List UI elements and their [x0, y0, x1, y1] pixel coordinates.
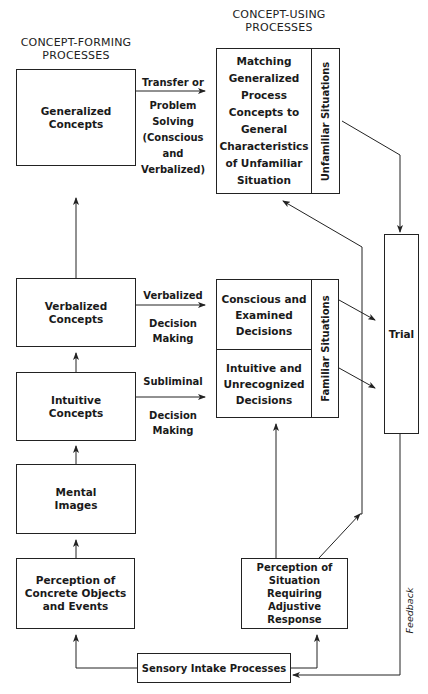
arrow-sensory-to-situation [291, 635, 317, 668]
unfamiliar-situations-box: Matching Generalized Process Concepts to… [216, 48, 340, 194]
mental-images-box: Mental Images [16, 464, 136, 534]
familiar-situations-label: Familiar Situations [312, 280, 339, 417]
transfer-label-bottom: Problem Solving (Conscious and Verbalize… [140, 98, 206, 178]
subliminal-decision-label-bottom: Decision Making [140, 408, 206, 438]
concept-forming-title: CONCEPT-FORMING PROCESSES [10, 36, 142, 62]
familiar-situations-box: Conscious and Examined Decisions Intuiti… [216, 279, 339, 418]
unfamiliar-situations-text: Unfamiliar Situations [320, 61, 333, 181]
transfer-label-top: Transfer or [140, 76, 206, 89]
feedback-label: Feedback [402, 580, 418, 640]
matching-concepts-text: Matching Generalized Process Concepts to… [217, 49, 311, 193]
conscious-decisions-text: Conscious and Examined Decisions [217, 280, 311, 349]
concept-using-title: CONCEPT-USING PROCESSES [214, 8, 344, 34]
arrow-sensory-to-concrete [76, 635, 137, 668]
sensory-intake-box: Sensory Intake Processes [137, 653, 291, 683]
intuitive-concepts-box: Intuitive Concepts [16, 372, 136, 441]
arrow-feedback [293, 434, 400, 675]
feedback-text: Feedback [405, 587, 416, 633]
trial-box: Trial [384, 234, 419, 434]
arrow-conscious-to-trial [339, 300, 375, 320]
arrow-intuitive-to-trial [339, 368, 375, 388]
verbalized-decision-label-top: Verbalized [140, 289, 206, 302]
subliminal-decision-label-top: Subliminal [140, 375, 206, 388]
verbalized-decision-label-bottom: Decision Making [140, 316, 206, 346]
arrow-unfamiliar-to-trial [342, 121, 400, 232]
generalized-concepts-box: Generalized Concepts [16, 69, 136, 166]
arrow-situation-diagonal [319, 514, 360, 558]
unfamiliar-situations-label: Unfamiliar Situations [312, 49, 340, 193]
concept-process-diagram: CONCEPT-FORMING PROCESSES CONCEPT-USING … [0, 0, 428, 694]
perception-situation-box: Perception of Situation Requiring Adjust… [241, 558, 348, 629]
verbalized-concepts-box: Verbalized Concepts [16, 278, 136, 347]
familiar-situations-text: Familiar Situations [319, 295, 332, 401]
perception-concrete-box: Perception of Concrete Objects and Event… [16, 558, 135, 629]
intuitive-decisions-text: Intuitive and Unrecognized Decisions [217, 350, 311, 418]
